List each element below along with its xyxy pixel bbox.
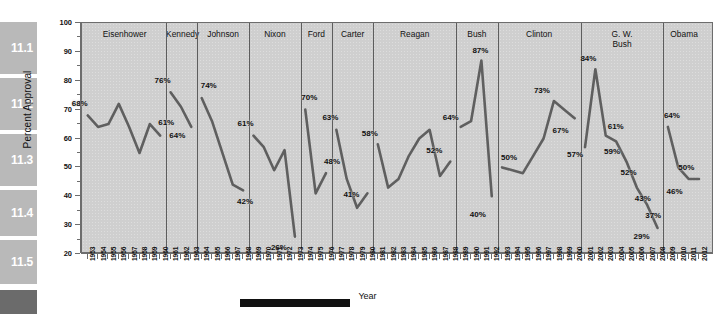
x-axis-tick-label: 1995	[524, 247, 531, 261]
data-value-label: 50%	[501, 153, 517, 162]
x-axis-tick	[553, 254, 554, 259]
y-axis-minor-tick	[77, 210, 80, 211]
x-axis-tick-label: 1976	[328, 247, 335, 261]
y-axis-minor-tick	[77, 239, 80, 240]
y-axis-tick-label: 60	[52, 133, 72, 142]
y-axis-tick	[75, 109, 80, 110]
x-axis-tick-label: 1992	[493, 247, 500, 261]
data-value-label: 52%	[621, 168, 637, 177]
data-value-label: 37%	[645, 211, 661, 220]
x-axis-tick	[636, 254, 637, 259]
x-axis-tick-label: 2009	[669, 247, 676, 261]
panel-divider	[249, 23, 250, 252]
x-axis-tick-label: 2004	[618, 247, 625, 261]
x-axis-tick-label: 2000	[576, 247, 583, 261]
panel-divider	[197, 23, 198, 252]
y-axis-tick	[75, 195, 80, 196]
x-axis-tick-label: 1963	[193, 247, 200, 261]
data-value-label: 58%	[362, 129, 378, 138]
x-axis-tick-label: 1966	[224, 247, 231, 261]
series-line-johnson	[202, 98, 243, 190]
panel-label-clinton: Clinton	[498, 29, 581, 39]
x-axis-tick	[480, 254, 481, 259]
x-axis-tick	[387, 254, 388, 259]
data-value-label: 67%	[553, 126, 569, 135]
x-axis-tick-label: 2006	[638, 247, 645, 261]
x-axis-tick-label: 1961	[172, 247, 179, 261]
series-line-reagan	[378, 130, 451, 188]
y-axis-tick	[75, 80, 80, 81]
y-axis-tick-label: 40	[52, 191, 72, 200]
x-axis-tick	[460, 254, 461, 259]
x-axis-tick	[677, 254, 678, 259]
panel-label-bush: Bush	[456, 29, 497, 39]
x-axis-tick-label: 1990	[473, 247, 480, 261]
x-axis-tick	[201, 254, 202, 259]
approval-rating-chart: EisenhowerKennedyJohnsonNixonFordCarterR…	[0, 0, 721, 314]
x-axis-tick	[242, 254, 243, 259]
data-value-label: 64%	[443, 113, 459, 122]
page-root: 11.111.211.311.411.5 EisenhowerKennedyJo…	[0, 0, 721, 314]
x-axis-tick-label: 2001	[587, 247, 594, 261]
data-value-label: 64%	[664, 111, 680, 120]
panel-label-carter: Carter	[332, 29, 373, 39]
x-axis-tick	[221, 254, 222, 259]
x-axis-tick	[501, 254, 502, 259]
y-axis-tick-label: 90	[52, 46, 72, 55]
x-axis-tick-label: 1953	[89, 247, 96, 261]
y-axis-tick-label: 20	[52, 249, 72, 258]
x-axis-tick-label: 1984	[410, 247, 417, 261]
y-axis-tick-label: 80	[52, 75, 72, 84]
x-axis-tick-label: 2008	[659, 247, 666, 261]
x-axis-tick	[398, 254, 399, 259]
x-axis-tick	[118, 254, 119, 259]
data-value-label: 64%	[169, 131, 185, 140]
x-axis-tick	[304, 254, 305, 259]
data-value-label: 50%	[678, 163, 694, 172]
x-axis-tick	[232, 254, 233, 259]
x-axis-tick	[325, 254, 326, 259]
x-axis-tick-label: 2011	[690, 247, 697, 261]
x-axis-tick-label: 1985	[421, 247, 428, 261]
x-axis-tick-label: 2012	[701, 247, 708, 261]
y-axis-line	[80, 22, 81, 253]
panel-divider	[498, 23, 499, 252]
data-value-label: 52%	[426, 146, 442, 155]
x-axis-tick	[522, 254, 523, 259]
x-axis-tick	[377, 254, 378, 259]
x-axis-tick	[574, 254, 575, 259]
x-axis-tick	[159, 254, 160, 259]
x-axis-tick	[107, 254, 108, 259]
x-axis-tick-label: 1957	[131, 247, 138, 261]
x-axis-tick	[470, 254, 471, 259]
x-axis-tick-label: 1983	[400, 247, 407, 261]
x-axis-tick	[511, 254, 512, 259]
x-axis-tick-label: 1972	[286, 247, 293, 261]
bottom-black-bar	[240, 299, 350, 307]
x-axis-tick-label: 1973	[297, 247, 304, 261]
panel-label-obama: Obama	[663, 29, 704, 39]
panel-label-g-w-bush: G. W. Bush	[581, 29, 664, 49]
panel-label-eisenhower: Eisenhower	[83, 29, 166, 39]
data-value-label: 84%	[580, 54, 596, 63]
data-value-label: 61%	[238, 119, 254, 128]
plot-area: EisenhowerKennedyJohnsonNixonFordCarterR…	[81, 22, 713, 253]
panel-divider	[456, 23, 457, 252]
x-axis-tick-label: 1997	[545, 247, 552, 261]
panel-label-nixon: Nixon	[249, 29, 301, 39]
y-axis-minor-tick	[77, 36, 80, 37]
x-axis-tick-label: 1969	[255, 247, 262, 261]
y-axis-minor-tick	[77, 123, 80, 124]
x-axis-tick-label: 1960	[162, 247, 169, 261]
y-axis-title: Percent Approval	[22, 55, 33, 165]
data-value-label: 87%	[472, 46, 488, 55]
x-axis-tick	[170, 254, 171, 259]
x-axis-tick-label: 2007	[649, 247, 656, 261]
series-line-g-w-bush	[585, 69, 658, 228]
x-axis-tick	[594, 254, 595, 259]
data-value-label: 76%	[155, 76, 171, 85]
y-axis-tick	[75, 51, 80, 52]
x-axis-tick-label: 1971	[276, 247, 283, 261]
x-axis-title-text: Year	[358, 291, 376, 301]
x-axis-tick-label: 1987	[442, 247, 449, 261]
